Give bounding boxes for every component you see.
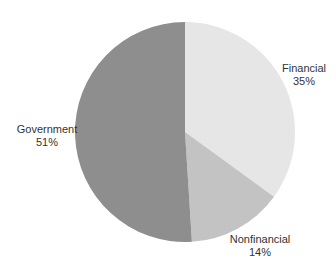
label-financial-name: Financial (282, 62, 326, 74)
pie-slices (75, 22, 295, 242)
label-government-name: Government (17, 123, 78, 135)
label-financial-pct: 35% (293, 75, 315, 87)
label-nonfinancial-name: Nonfinancial (230, 233, 291, 245)
label-government-pct: 51% (36, 136, 58, 148)
pie-slice-government (75, 22, 192, 242)
pie-chart: Financial 35% Government 51% Nonfinancia… (0, 0, 336, 265)
label-nonfinancial-pct: 14% (249, 246, 271, 258)
